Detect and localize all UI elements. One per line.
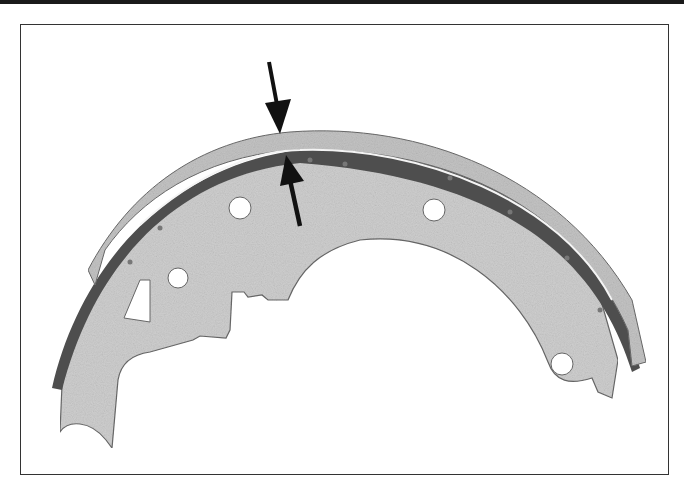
hole <box>229 197 251 219</box>
brake-shoe-illustration <box>0 0 684 488</box>
hole <box>551 353 573 375</box>
arrow-down-icon <box>265 62 291 134</box>
hole <box>168 268 188 288</box>
hole <box>423 199 445 221</box>
